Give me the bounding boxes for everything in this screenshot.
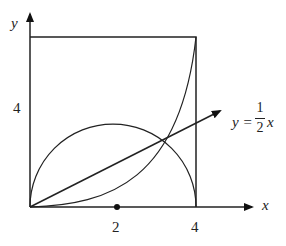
equation-var: x xyxy=(267,115,274,130)
x-tick-4: 4 xyxy=(191,220,199,235)
diagram: y x 4 2 4 y = 1 2 x xyxy=(0,0,286,246)
fraction-bar xyxy=(255,118,265,119)
x-axis-label: x xyxy=(262,198,269,213)
fraction-numerator: 1 xyxy=(255,101,265,115)
curve xyxy=(30,37,196,207)
y-tick-4: 4 xyxy=(13,101,21,116)
point-x2 xyxy=(114,204,120,210)
fraction-denominator: 2 xyxy=(255,121,265,135)
equation-lhs: y = xyxy=(232,115,253,130)
square-outline xyxy=(30,37,196,207)
y-axis-label: y xyxy=(11,16,18,31)
x-tick-2: 2 xyxy=(112,220,120,235)
